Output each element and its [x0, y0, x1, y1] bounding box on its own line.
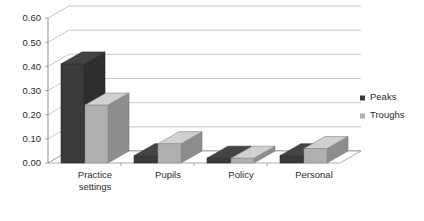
bar-front-face: [134, 156, 157, 163]
bar-front-face: [158, 144, 181, 163]
y-axis-tick-label: 0.20: [23, 109, 42, 120]
x-axis-category-label: Personal: [295, 169, 333, 180]
y-axis-tick-label: 0.50: [23, 37, 42, 48]
y-axis-tick-label: 0.10: [23, 133, 42, 144]
x-axis-category-labels: PracticesettingsPupilsPolicyPersonal: [78, 163, 333, 192]
bar-front-face: [304, 149, 327, 164]
bar-front-face: [61, 64, 84, 163]
bar-front-face: [207, 158, 230, 163]
x-axis-category-label: Pupils: [155, 169, 181, 180]
x-axis-category-label: Policy: [228, 169, 254, 180]
x-axis-category-label: settings: [79, 181, 112, 192]
bar-troughs-practice-settings: [85, 93, 129, 163]
y-axis-tick-label: 0.30: [23, 85, 42, 96]
gridline: [48, 30, 361, 42]
chart-legend: PeaksTroughs: [360, 91, 405, 120]
value-axis: [45, 18, 48, 163]
gridline: [48, 6, 361, 18]
y-axis-tick-label: 0.60: [23, 12, 42, 23]
legend-square-marker: [360, 114, 365, 119]
y-axis-tick-label: 0.00: [23, 157, 42, 168]
bar-front-face: [231, 158, 254, 163]
x-axis-category-label: Practice: [78, 169, 112, 180]
legend-label-peaks: Peaks: [370, 91, 397, 102]
chart-canvas: 0.000.100.200.300.400.500.60 Practiceset…: [0, 0, 424, 221]
y-axis-tick-label: 0.40: [23, 61, 42, 72]
bar-chart: 0.000.100.200.300.400.500.60 Practiceset…: [0, 0, 424, 221]
y-axis-tick-labels: 0.000.100.200.300.400.500.60: [23, 12, 42, 168]
bar-front-face: [85, 105, 108, 163]
legend-label-troughs: Troughs: [370, 109, 405, 120]
bar-front-face: [280, 156, 303, 163]
legend-square-marker: [360, 96, 365, 101]
bars-group: [61, 52, 348, 163]
